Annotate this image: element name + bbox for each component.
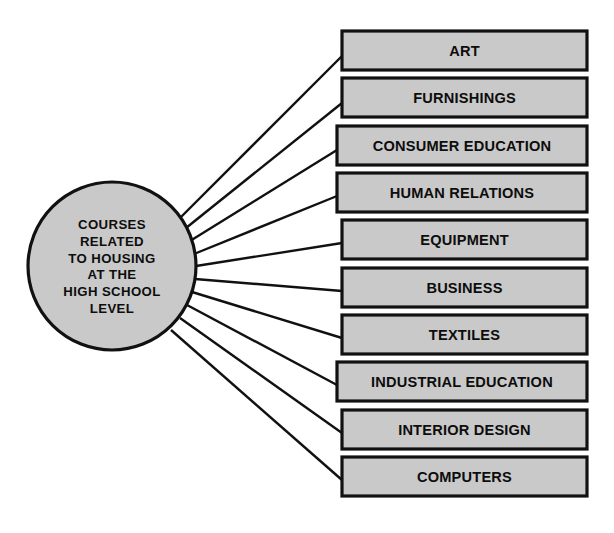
node-label: COMPUTERS (417, 469, 512, 485)
hub-label-line: HIGH SCHOOL (63, 284, 160, 299)
node-business[interactable]: BUSINESS (342, 268, 587, 307)
node-consumer-education[interactable]: CONSUMER EDUCATION (337, 126, 587, 165)
node-label: INTERIOR DESIGN (398, 422, 531, 438)
diagram-canvas: COURSESRELATEDTO HOUSINGAT THEHIGH SCHOO… (0, 0, 614, 533)
node-label: TEXTILES (429, 327, 500, 343)
node-label: BUSINESS (426, 280, 502, 296)
node-layer: ARTFURNISHINGSCONSUMER EDUCATIONHUMAN RE… (337, 31, 587, 496)
hub-label-line: LEVEL (90, 301, 135, 316)
connector-line (186, 103, 342, 228)
node-label: EQUIPMENT (420, 232, 509, 248)
node-furnishings[interactable]: FURNISHINGS (342, 78, 587, 117)
node-industrial-education[interactable]: INDUSTRIAL EDUCATION (337, 362, 587, 401)
connector-line (195, 279, 342, 291)
node-equipment[interactable]: EQUIPMENT (342, 220, 587, 259)
connector-line (196, 243, 342, 266)
node-human-relations[interactable]: HUMAN RELATIONS (337, 173, 587, 212)
node-art[interactable]: ART (342, 31, 587, 70)
node-label: HUMAN RELATIONS (390, 185, 535, 201)
hub-label-line: RELATED (80, 234, 144, 249)
connector-line (192, 292, 342, 338)
node-label: FURNISHINGS (413, 90, 516, 106)
hub-label-line: TO HOUSING (68, 251, 155, 266)
node-label: ART (449, 43, 480, 59)
hub-circle[interactable] (28, 182, 196, 350)
node-label: CONSUMER EDUCATION (373, 138, 551, 154)
diagram-svg: COURSESRELATEDTO HOUSINGAT THEHIGH SCHOO… (0, 0, 614, 533)
hub-label-line: COURSES (78, 217, 146, 232)
connector-line (187, 305, 337, 385)
hub-node-courses-related-to-housing[interactable]: COURSESRELATEDTO HOUSINGAT THEHIGH SCHOO… (28, 182, 196, 350)
node-textiles[interactable]: TEXTILES (342, 315, 587, 354)
connector-line (171, 330, 342, 480)
node-interior-design[interactable]: INTERIOR DESIGN (342, 410, 587, 449)
node-label: INDUSTRIAL EDUCATION (371, 374, 553, 390)
connector-line (181, 56, 342, 217)
node-computers[interactable]: COMPUTERS (342, 457, 587, 496)
hub-label-line: AT THE (87, 267, 136, 282)
connector-line (190, 150, 337, 241)
